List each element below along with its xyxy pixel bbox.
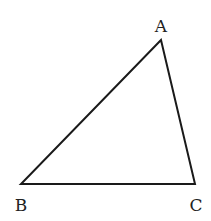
triangle-diagram: A B C bbox=[0, 0, 211, 221]
vertex-label-a: A bbox=[154, 16, 168, 36]
triangle-abc bbox=[21, 40, 195, 184]
vertex-label-b: B bbox=[15, 195, 28, 215]
vertex-label-c: C bbox=[189, 195, 202, 215]
